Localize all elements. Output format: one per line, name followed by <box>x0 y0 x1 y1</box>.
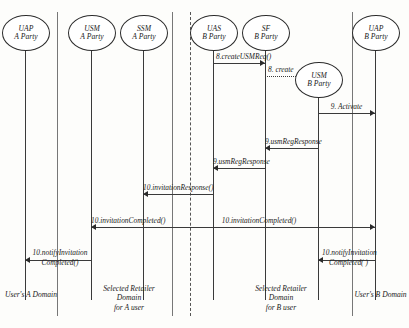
domain-caption-line1: Selected Retailer <box>86 284 172 293</box>
domain-caption-footer-b-retailer: Selected RetailerDomainfor B user <box>238 284 324 312</box>
lifeline-usm-b <box>318 96 319 300</box>
message-arrowhead-m6 <box>143 191 148 197</box>
lifeline-uas-b <box>213 49 214 300</box>
domain-caption-line1: User's B Domain <box>352 290 409 299</box>
actor-usm-b[interactable]: USMB Party <box>295 62 343 98</box>
message-label-m3: 9. Activate <box>318 103 375 111</box>
message-label-m9: 10.notifyInvitationCompleted() <box>29 249 91 268</box>
domain-divider-div-a-right <box>172 12 173 316</box>
domain-divider-div-center <box>190 12 191 316</box>
message-label-line2: Completed( ) <box>322 259 375 267</box>
message-label-m8: 10.invitationCompleted() <box>143 217 375 225</box>
actor-role: A Party <box>14 33 37 41</box>
domain-caption-line1: Selected Retailer <box>238 284 324 293</box>
message-label-m7: 10.invitationCompleted() <box>91 217 143 225</box>
message-arrowhead-m8 <box>370 224 375 230</box>
message-label-line1: 10.notifyInvitation <box>322 249 375 257</box>
lifeline-uap-b <box>375 49 376 300</box>
message-label-m6: 10.invitationResponse() <box>143 184 213 192</box>
actor-uas-b[interactable]: UASB Party <box>190 15 238 51</box>
domain-divider-div-a-left <box>57 12 58 316</box>
message-label-line2: Completed() <box>29 259 91 267</box>
domain-caption-line2: Domain <box>86 293 172 302</box>
domain-caption-line2: Domain <box>238 293 324 302</box>
actor-role: B Party <box>202 33 225 41</box>
message-line-m7 <box>91 227 143 228</box>
domain-caption-footer-b-domain: User's B Domain <box>352 290 409 299</box>
actor-role: B Party <box>307 80 330 88</box>
message-arrowhead-m5 <box>213 165 218 171</box>
message-line-m8 <box>143 227 375 228</box>
actor-uap-b[interactable]: UAPB Party <box>352 15 400 51</box>
lifeline-sf-b <box>265 49 266 300</box>
message-line-m3 <box>318 113 375 114</box>
domain-caption-footer-a-domain: User's A Domain <box>2 290 60 299</box>
lifeline-ssm-a <box>143 49 144 300</box>
message-label-m10: 10.notifyInvitationCompleted( ) <box>322 249 375 268</box>
actor-role: A Party <box>132 33 155 41</box>
message-label-m5: 9.usmRegResponse <box>213 158 265 166</box>
actor-sf-b[interactable]: SFB Party <box>242 15 290 51</box>
actor-usm-a[interactable]: USMA Party <box>68 15 116 51</box>
sequence-diagram-canvas: UAPA PartyUSMA PartySSMA PartyUASB Party… <box>0 0 409 328</box>
actor-uap-a[interactable]: UAPA Party <box>2 15 50 51</box>
actor-role: B Party <box>254 33 277 41</box>
message-arrowhead-m3 <box>370 110 375 116</box>
domain-caption-line1: User's A Domain <box>2 290 60 299</box>
message-label-line1: 10.notifyInvitation <box>29 249 91 257</box>
message-line-m5 <box>213 168 265 169</box>
domain-caption-line3: for A user <box>86 303 172 312</box>
message-line-m1 <box>213 63 265 64</box>
message-label-m4: 9.usmRegResponse <box>265 138 318 146</box>
actor-ssm-a[interactable]: SSMA Party <box>120 15 168 51</box>
lifeline-usm-a <box>91 49 92 300</box>
domain-caption-line3: for B user <box>238 303 324 312</box>
message-arrowhead-m7 <box>91 224 96 230</box>
message-arrowhead-m4 <box>265 145 270 151</box>
message-arrowhead-m1 <box>260 60 265 66</box>
message-label-m2: 8. create <box>268 66 294 74</box>
message-label-m1: 8.createUSMReq() <box>216 53 271 61</box>
domain-divider-div-b-right <box>352 12 353 316</box>
message-line-m4 <box>265 148 318 149</box>
message-line-m6 <box>143 194 213 195</box>
actor-role: B Party <box>364 33 387 41</box>
actor-role: A Party <box>80 33 103 41</box>
domain-caption-footer-a-retailer: Selected RetailerDomainfor A user <box>86 284 172 312</box>
